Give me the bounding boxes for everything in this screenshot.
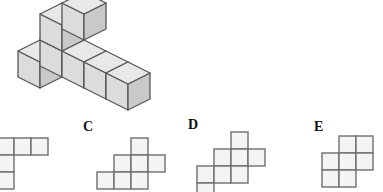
net-cell [131, 172, 148, 189]
net-cell [356, 136, 373, 153]
option-c[interactable] [97, 138, 165, 189]
answer-option-nets [0, 0, 383, 192]
net-cell [197, 166, 214, 183]
option-c-label: C [83, 120, 93, 134]
question-figure-stage: CDE [0, 0, 383, 192]
net-cell [0, 138, 14, 155]
net-cell [97, 172, 114, 189]
option-d[interactable] [197, 132, 265, 192]
net-cell [214, 166, 231, 183]
net-cell [248, 149, 265, 166]
net-cell [231, 166, 248, 183]
option-e[interactable] [322, 136, 373, 187]
net-cell [131, 155, 148, 172]
net-cell [114, 155, 131, 172]
net-cell [131, 138, 148, 155]
net-cell [0, 155, 14, 172]
net-cell [114, 172, 131, 189]
net-cell [148, 155, 165, 172]
net-cell [322, 153, 339, 170]
net-cell [31, 138, 48, 155]
net-cell [14, 138, 31, 155]
net-cell [339, 136, 356, 153]
option-d-label: D [188, 118, 198, 132]
option-b[interactable] [0, 138, 48, 189]
net-cell [197, 183, 214, 192]
net-cell [339, 170, 356, 187]
net-cell [0, 172, 14, 189]
net-cell [356, 153, 373, 170]
net-cell [231, 149, 248, 166]
net-cell [214, 149, 231, 166]
net-cell [231, 132, 248, 149]
option-e-label: E [314, 120, 323, 134]
net-cell [322, 170, 339, 187]
net-cell [339, 153, 356, 170]
